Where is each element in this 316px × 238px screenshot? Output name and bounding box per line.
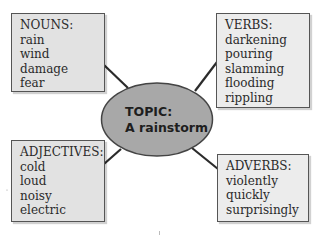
verbs-title: VERBS:: [225, 18, 309, 33]
connector-verbs: [195, 62, 217, 91]
noun-word: rain: [20, 33, 104, 48]
adjectives-box: ADJECTIVES: cold loud noisy electric: [11, 140, 105, 222]
verb-word: slamming: [225, 62, 309, 77]
nouns-title: NOUNS:: [20, 18, 104, 33]
topic-heading: TOPIC:: [125, 104, 208, 120]
adjectives-title: ADJECTIVES:: [20, 145, 104, 160]
verbs-box: VERBS: darkening pouring slamming floodi…: [216, 13, 310, 108]
adverb-word: quickly: [226, 188, 308, 203]
adjective-word: noisy: [20, 189, 104, 204]
adjective-word: electric: [20, 203, 104, 218]
noun-word: damage: [20, 62, 104, 77]
noun-word: wind: [20, 47, 104, 62]
adverbs-title: ADVERBS:: [226, 159, 308, 174]
topic-label: TOPIC: A rainstorm: [125, 104, 208, 136]
adjective-word: loud: [20, 174, 104, 189]
topic-value: A rainstorm: [125, 120, 208, 136]
adverb-word: violently: [226, 174, 308, 189]
word-web-diagram: NOUNS: rain wind damage fear VERBS: dark…: [0, 0, 316, 238]
connector-adjectives: [104, 149, 121, 164]
verb-word: pouring: [225, 47, 309, 62]
verb-word: rippling: [225, 91, 309, 106]
adverb-word: surprisingly: [226, 203, 308, 218]
adjective-word: cold: [20, 160, 104, 175]
scan-speck: [6, 189, 7, 190]
verb-word: darkening: [225, 33, 309, 48]
verb-word: flooding: [225, 76, 309, 91]
nouns-box: NOUNS: rain wind damage fear: [11, 13, 105, 92]
connector-nouns: [104, 65, 128, 88]
adverbs-box: ADVERBS: violently quickly surprisingly: [217, 154, 309, 222]
noun-word: fear: [20, 76, 104, 91]
connector-adverbs: [192, 148, 218, 169]
scan-speck: [159, 231, 160, 235]
